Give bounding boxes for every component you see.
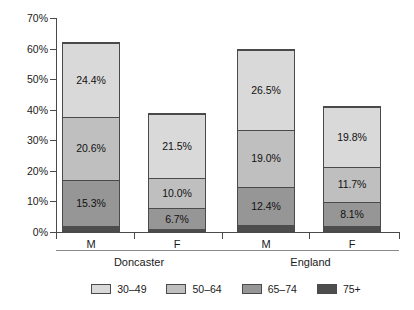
segment-value-label: 26.5% xyxy=(251,85,280,96)
bar-segment[interactable] xyxy=(324,226,380,231)
y-axis-tick-label: 60% xyxy=(2,44,48,54)
y-axis-tick-label: 0% xyxy=(2,227,48,237)
x-axis-category-label: M xyxy=(236,238,296,250)
legend-item[interactable]: 65–74 xyxy=(242,284,297,295)
y-axis-tick-label-wrap: 50% xyxy=(0,74,48,84)
chart-legend: 30–4950–6465–7475+ xyxy=(56,278,396,300)
legend-label: 50–64 xyxy=(192,284,221,295)
legend-swatch-icon xyxy=(317,284,337,294)
legend-item[interactable]: 50–64 xyxy=(166,284,221,295)
segment-value-label: 11.7% xyxy=(338,179,367,190)
legend-swatch-icon xyxy=(166,284,186,294)
legend-label: 30–49 xyxy=(117,284,146,295)
legend-label: 65–74 xyxy=(268,284,297,295)
bar-england-f[interactable]: 8.1%11.7%19.8% xyxy=(323,106,381,232)
bar-segment[interactable]: 8.1% xyxy=(324,202,380,226)
segment-value-label: 19.0% xyxy=(251,153,280,164)
bar-segment[interactable] xyxy=(238,225,294,231)
legend-swatch-icon xyxy=(242,284,262,294)
y-axis-tick-label: 70% xyxy=(2,13,48,23)
bar-segment[interactable]: 21.5% xyxy=(149,114,205,179)
stacked-bar-chart: 70%60%50%40%30%20%10%0% 15.3%20.6%24.4%6… xyxy=(0,0,414,310)
y-axis-tick-label: 10% xyxy=(2,196,48,206)
bar-segment[interactable]: 11.7% xyxy=(324,167,380,202)
segment-value-label: 12.4% xyxy=(251,201,280,212)
segment-value-label: 20.6% xyxy=(76,143,105,154)
legend-swatch-icon xyxy=(91,284,111,294)
x-axis-group-bracket xyxy=(56,250,222,251)
bar-segment[interactable]: 26.5% xyxy=(238,50,294,130)
x-axis-category-label: F xyxy=(147,238,207,250)
x-axis-category-label: M xyxy=(61,238,121,250)
x-axis-group-tick xyxy=(222,232,223,239)
bar-segment[interactable]: 19.8% xyxy=(324,107,380,167)
bar-segment[interactable] xyxy=(149,229,205,231)
bar-doncaster-m[interactable]: 15.3%20.6%24.4% xyxy=(62,42,120,232)
bar-segment[interactable]: 15.3% xyxy=(63,180,119,226)
bar-segment[interactable]: 19.0% xyxy=(238,130,294,187)
x-axis-group-tick xyxy=(399,232,400,239)
y-axis-tick-label: 20% xyxy=(2,166,48,176)
legend-item[interactable]: 30–49 xyxy=(91,284,146,295)
bar-england-m[interactable]: 12.4%19.0%26.5% xyxy=(237,49,295,232)
y-axis-tick-label-wrap: 10% xyxy=(0,196,48,206)
x-axis-line xyxy=(56,232,400,233)
segment-value-label: 19.8% xyxy=(337,132,366,143)
legend-label: 75+ xyxy=(343,284,361,295)
x-axis-group-tick xyxy=(56,232,57,239)
y-axis-tick-label-wrap: 40% xyxy=(0,105,48,115)
plot-area: 15.3%20.6%24.4%6.7%10.0%21.5%12.4%19.0%2… xyxy=(56,18,396,232)
segment-value-label: 6.7% xyxy=(165,214,189,225)
bar-segment[interactable]: 6.7% xyxy=(149,208,205,228)
segment-value-label: 8.1% xyxy=(340,209,364,220)
x-axis-category-label: F xyxy=(322,238,382,250)
x-axis-group-tick xyxy=(309,232,310,239)
legend-item[interactable]: 75+ xyxy=(317,284,361,295)
segment-value-label: 21.5% xyxy=(162,141,191,152)
y-axis-tick-label-wrap: 70% xyxy=(0,13,48,23)
y-axis-tick-label-wrap: 0% xyxy=(0,227,48,237)
segment-value-label: 10.0% xyxy=(162,188,191,199)
x-axis-group-bracket xyxy=(222,250,399,251)
bar-segment[interactable]: 20.6% xyxy=(63,117,119,179)
bar-doncaster-f[interactable]: 6.7%10.0%21.5% xyxy=(148,113,206,232)
bar-segment[interactable] xyxy=(63,226,119,231)
y-axis-tick-label-wrap: 30% xyxy=(0,135,48,145)
segment-value-label: 24.4% xyxy=(76,75,105,86)
y-axis-tick-label: 40% xyxy=(2,105,48,115)
y-axis-tick-label: 50% xyxy=(2,74,48,84)
x-axis-group-label: England xyxy=(202,256,414,268)
y-axis-tick-label-wrap: 20% xyxy=(0,166,48,176)
y-axis-tick-label-wrap: 60% xyxy=(0,44,48,54)
segment-value-label: 15.3% xyxy=(76,198,105,209)
x-axis-group-tick xyxy=(134,232,135,239)
bar-segment[interactable]: 12.4% xyxy=(238,187,294,225)
y-axis-tick-label: 30% xyxy=(2,135,48,145)
bar-segment[interactable]: 10.0% xyxy=(149,178,205,208)
bar-segment[interactable]: 24.4% xyxy=(63,43,119,117)
